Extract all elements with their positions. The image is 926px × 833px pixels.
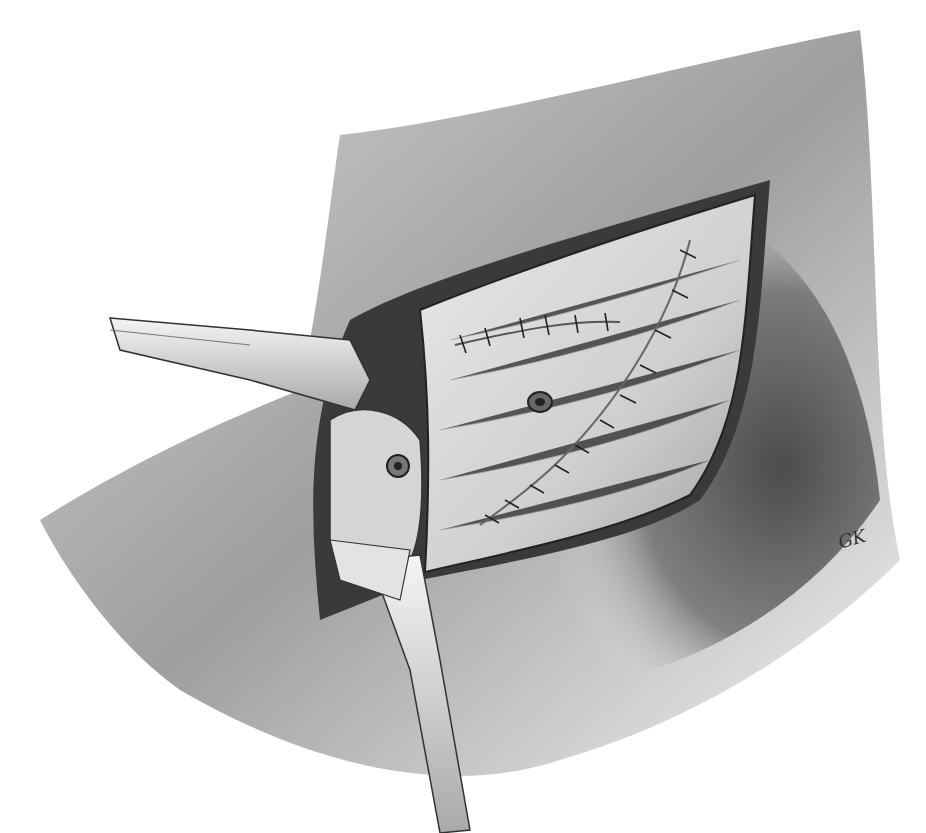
- surgical-illustration: GK: [0, 0, 926, 833]
- illustration-canvas: [0, 0, 926, 833]
- port-upper: [528, 392, 552, 412]
- port-lower: [387, 455, 409, 477]
- inner-tissue-left: [330, 410, 422, 560]
